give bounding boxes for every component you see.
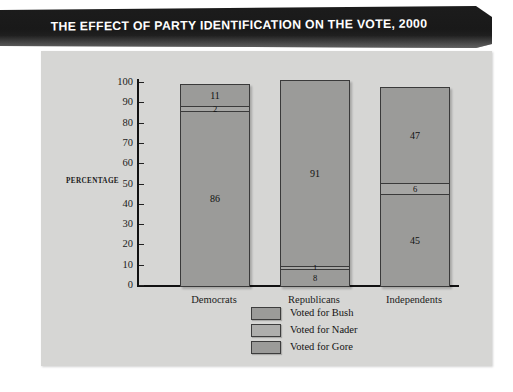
value-independents-bush: 47 (410, 131, 420, 141)
bar-stack-democrats[interactable]: 11 2 86 (180, 84, 250, 287)
segment-independents-gore: 45 (381, 195, 449, 286)
y-tick-label-80: 80 (93, 118, 133, 129)
bar-stack-independents[interactable]: 47 6 45 (380, 87, 450, 287)
legend-item-nader[interactable]: Voted for Nader (251, 323, 357, 338)
bar-group-independents: 47 6 45 Independents (380, 87, 448, 287)
y-tick-label-100: 100 (93, 77, 133, 88)
value-independents-gore: 45 (410, 236, 420, 246)
value-democrats-bush: 11 (210, 91, 220, 101)
plot-area: PERCENTAGE 0102030405060708090100 11 2 8… (41, 51, 492, 366)
y-tick-60 (139, 163, 144, 164)
figure-panel: PERCENTAGE 0102030405060708090100 11 2 8… (41, 51, 492, 366)
category-label-independents: Independents (354, 294, 474, 305)
legend-label-bush: Voted for Bush (290, 308, 353, 319)
legend-swatch-gore (251, 341, 281, 354)
segment-independents-bush: 47 (381, 88, 449, 183)
bar-group-democrats: 11 2 86 Democrats (180, 84, 248, 287)
y-tick-label-30: 30 (93, 219, 133, 230)
legend-label-gore: Voted for Gore (290, 342, 353, 353)
value-republicans-gore: 8 (313, 274, 317, 283)
y-tick-50 (139, 184, 144, 185)
segment-republicans-bush: 91 (281, 81, 349, 266)
segment-independents-nader: 6 (381, 183, 449, 195)
y-tick-0 (139, 285, 144, 286)
bar-group-republicans: 91 1 8 Republicans (280, 80, 348, 287)
y-tick-label-10: 10 (93, 260, 133, 271)
y-tick-label-60: 60 (93, 158, 133, 169)
chart-title: THE EFFECT OF PARTY IDENTIFICATION ON TH… (0, 2, 478, 48)
y-tick-label-0: 0 (93, 280, 133, 291)
segment-republicans-gore: 8 (281, 270, 349, 286)
y-tick-100 (139, 82, 144, 83)
y-tick-label-90: 90 (93, 97, 133, 108)
y-tick-label-50: 50 (93, 179, 133, 190)
legend-item-bush[interactable]: Voted for Bush (251, 306, 357, 321)
value-republicans-bush: 91 (310, 169, 320, 179)
value-independents-nader: 6 (413, 185, 417, 194)
legend-swatch-bush (251, 307, 281, 320)
y-tick-40 (139, 204, 144, 205)
y-tick-label-70: 70 (93, 138, 133, 149)
legend-label-nader: Voted for Nader (290, 325, 357, 336)
y-tick-label-40: 40 (93, 199, 133, 210)
y-tick-20 (139, 244, 144, 245)
value-democrats-gore: 86 (210, 194, 220, 204)
y-tick-90 (139, 102, 144, 103)
y-tick-80 (139, 123, 144, 124)
y-tick-10 (139, 265, 144, 266)
chart-legend: Voted for Bush Voted for Nader Voted for… (251, 306, 357, 357)
y-tick-70 (139, 143, 144, 144)
legend-item-gore[interactable]: Voted for Gore (251, 340, 357, 355)
bar-stack-republicans[interactable]: 91 1 8 (280, 80, 350, 287)
y-tick-30 (139, 224, 144, 225)
y-tick-label-20: 20 (93, 239, 133, 250)
segment-democrats-gore: 86 (181, 112, 249, 286)
segment-democrats-bush: 11 (181, 85, 249, 106)
legend-swatch-nader (251, 324, 281, 337)
title-banner: THE EFFECT OF PARTY IDENTIFICATION ON TH… (0, 6, 492, 48)
